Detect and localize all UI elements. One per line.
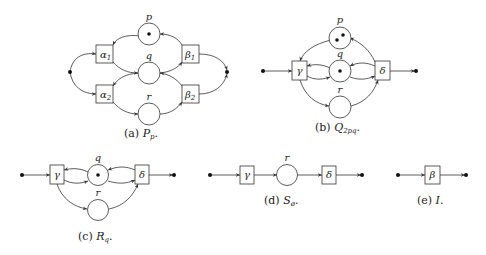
panel-d: r γ δ (d) Sø. [208, 152, 364, 208]
token [335, 38, 339, 42]
panel-b: p q r γ δ (b) Q2pq. [261, 14, 418, 135]
arc-gamma-r [300, 80, 329, 106]
token [147, 32, 151, 36]
end-node [172, 173, 176, 177]
caption-e: (e) I. [417, 194, 443, 207]
arc-start-alpha2 [70, 72, 96, 94]
panel-a: p q r α1 α2 β1 β2 (a) Pp. [68, 11, 229, 141]
arc-gamma-q [307, 76, 330, 79]
caption-b: (b) Q2pq. [315, 121, 360, 135]
arc-q-gamma [64, 169, 88, 172]
place-r [277, 165, 298, 186]
token [96, 173, 100, 177]
caption-a: (a) Pp. [124, 127, 158, 141]
transition-label-gamma: γ [54, 169, 60, 180]
arc-delta-q [350, 63, 375, 66]
start-node [68, 70, 72, 74]
transition-label-delta: δ [326, 169, 332, 180]
transition-label-gamma: γ [297, 65, 303, 76]
arc-gamma-q [64, 180, 88, 183]
arc-beta2-q [160, 73, 182, 86]
arc-p-gamma [300, 40, 331, 61]
end-node [225, 70, 229, 74]
panel-e: β (e) I. [396, 166, 468, 207]
arc-beta1-end [199, 54, 227, 70]
start-node [396, 173, 400, 177]
start-node [20, 173, 24, 177]
petri-net-figure: p q r α1 α2 β1 β2 (a) Pp. p [0, 0, 486, 255]
transition-label-beta: β [429, 169, 436, 180]
transition-label-gamma: γ [244, 169, 250, 180]
end-node [360, 173, 364, 177]
place-label-p: p [146, 11, 153, 22]
arc-r-delta [109, 184, 138, 209]
panel-c: q r γ δ (c) Rq. [20, 152, 176, 244]
place-r [329, 96, 351, 118]
arc-q-delta [108, 180, 135, 183]
place-q [138, 62, 160, 84]
place-label-q: q [146, 50, 152, 61]
arc-beta1-p [160, 34, 182, 45]
arc-alpha1-q [113, 62, 138, 73]
place-label-p: p [337, 14, 344, 25]
transition-label-delta: δ [379, 65, 385, 76]
start-node [261, 69, 265, 73]
token [338, 69, 342, 73]
place-r [88, 200, 109, 221]
arc-r-beta2 [160, 102, 182, 114]
place-p [329, 27, 351, 49]
transition-label-delta: δ [139, 169, 145, 180]
caption-d: (d) Sø. [264, 194, 298, 208]
arc-alpha2-r [113, 102, 138, 114]
arc-q-alpha2 [113, 73, 138, 86]
arc-delta-q [108, 167, 135, 170]
arc-r-delta [351, 80, 378, 106]
place-r [138, 103, 160, 125]
end-node [414, 69, 418, 73]
place-label-r: r [285, 152, 291, 163]
place-label-r: r [96, 187, 102, 198]
token [341, 33, 345, 37]
arc-beta2-end [199, 74, 227, 94]
arc-delta-p [350, 38, 375, 62]
place-label-r: r [147, 91, 153, 102]
arc-p-alpha1 [113, 35, 140, 45]
end-node [464, 173, 468, 177]
place-label-q: q [95, 152, 101, 163]
arc-q-gamma [307, 65, 330, 68]
place-label-r: r [338, 84, 344, 95]
caption-c: (c) Rq. [78, 230, 113, 244]
arc-gamma-r [57, 184, 87, 209]
place-label-q: q [337, 48, 343, 59]
arc-q-delta [350, 76, 375, 79]
arc-start-alpha1 [70, 54, 96, 72]
arc-q-beta1 [160, 62, 182, 73]
start-node [208, 173, 212, 177]
